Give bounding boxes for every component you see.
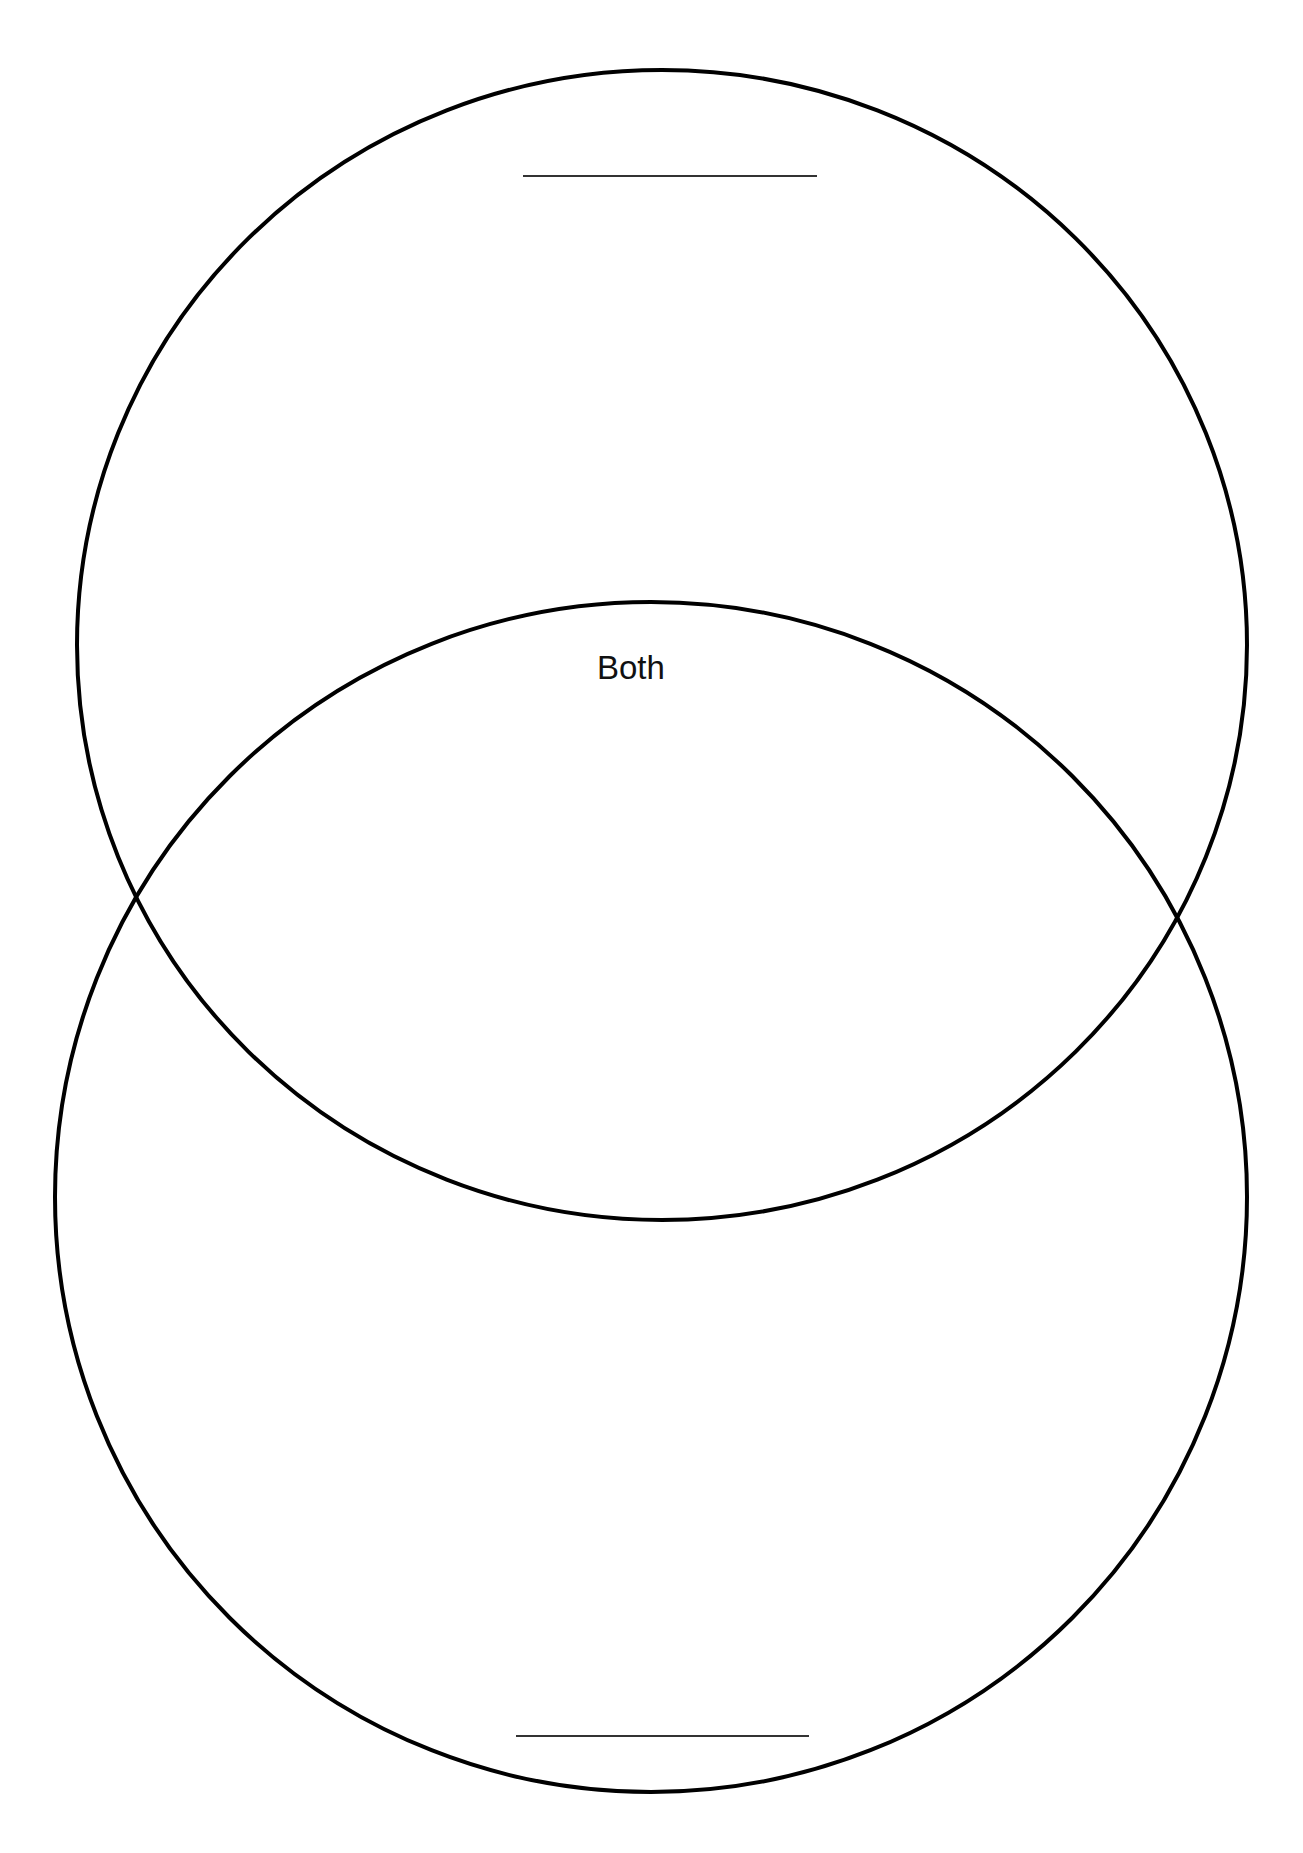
top-circle [77, 70, 1247, 1220]
bottom-circle [55, 602, 1247, 1792]
top-set-title-blank[interactable] [523, 175, 817, 177]
bottom-set-title-blank[interactable] [516, 1735, 809, 1737]
venn-diagram [0, 0, 1303, 1853]
intersection-label: Both [597, 651, 665, 684]
